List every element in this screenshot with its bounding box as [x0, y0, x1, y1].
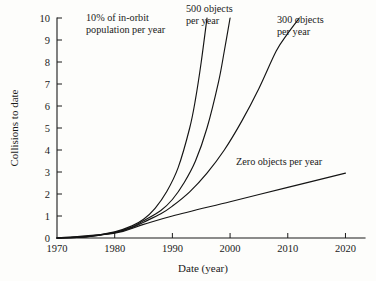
y-axis-tick-label: 0	[45, 233, 50, 244]
x-axis-tick-label: 2010	[277, 243, 298, 254]
curve-10-of-in-orbit-population-per-year	[57, 18, 207, 238]
y-axis-tick-label: 3	[45, 167, 50, 178]
chart-canvas: 012345678910197019801990200020102020 Dat…	[0, 0, 376, 281]
x-axis-title: Date (year)	[178, 262, 228, 275]
annotation-300-objects-curve: 300 objects per year	[277, 14, 324, 37]
curve-300-objects-per-year	[57, 18, 299, 238]
y-axis-tick-label: 4	[45, 145, 51, 156]
y-axis-tick-label: 2	[45, 189, 50, 200]
y-axis-tick-label: 8	[45, 57, 50, 68]
y-axis-tick-label: 9	[45, 35, 50, 46]
y-axis-tick-label: 5	[45, 123, 50, 134]
annotation-zero-objects-curve: Zero objects per year	[236, 156, 322, 168]
y-axis-tick-label: 6	[45, 101, 50, 112]
x-axis-tick-label: 1970	[47, 243, 68, 254]
axes	[57, 18, 365, 238]
x-axis-tick-label: 1990	[162, 243, 183, 254]
curve-zero-objects-per-year	[57, 173, 345, 238]
annotation-500-objects-curve: 500 objects per year	[186, 3, 233, 26]
curve-500-objects-per-year	[57, 18, 230, 238]
tick-labels: 012345678910197019801990200020102020	[40, 13, 356, 254]
y-axis-title: Collisions to date	[8, 89, 20, 166]
x-axis-tick-label: 2020	[335, 243, 356, 254]
y-axis-tick-label: 7	[45, 79, 50, 90]
data-curves	[57, 18, 345, 238]
collision-projection-figure: 012345678910197019801990200020102020 Dat…	[0, 0, 376, 281]
x-axis-tick-label: 1980	[104, 243, 125, 254]
annotation-10-percent-curve: 10% of in-orbit population per year	[86, 12, 165, 35]
y-axis-tick-label: 1	[45, 211, 50, 222]
y-axis-tick-label: 10	[40, 13, 51, 24]
x-axis-tick-label: 2000	[220, 243, 241, 254]
